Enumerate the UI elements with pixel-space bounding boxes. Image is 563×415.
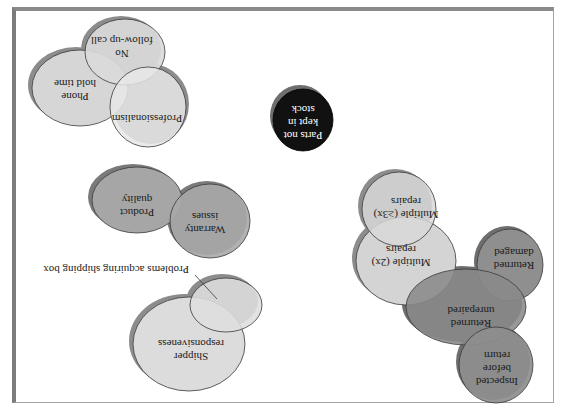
label-shipper-2: responsiveness [158, 338, 224, 350]
label-warranty-1: Warranty [184, 224, 225, 236]
label-warranty-2: issues [192, 211, 218, 223]
label-inspected-1: Inspected [475, 376, 518, 388]
label-returned-unrepaired-2: unrepaired [447, 305, 495, 317]
cluster-customer-service: No follow-up call Phone hold time Profes… [28, 16, 189, 147]
bubble-professionalism [110, 67, 186, 147]
label-professionalism: Professionalism [111, 113, 182, 125]
label-inspected-2: before [483, 363, 511, 375]
label-parts-1: Parts not [284, 130, 323, 142]
label-product-2: quality [121, 194, 152, 206]
bubble-multiple-3x [362, 172, 436, 246]
label-phone-hold-1: Phone [61, 91, 89, 103]
cluster-shipping: Problems acquiring shipping box Shipper … [43, 264, 262, 391]
label-inspected-3: return [483, 350, 510, 362]
label-shipper-1: Shipper [174, 351, 209, 363]
label-multiple-2x-2: repairs [386, 244, 416, 256]
label-parts-2: kept in [287, 117, 318, 129]
cluster-product: Product quality Warranty issues [88, 164, 250, 258]
cluster-parts: Parts not kept in stock [270, 85, 333, 151]
bubble-problems-shipping-box [190, 278, 262, 332]
label-phone-hold-2: hold time [54, 78, 96, 90]
label-multiple-3x-1: Multiple (≥3x) [373, 208, 438, 221]
label-parts-3: stock [291, 104, 315, 116]
label-no-follow-up-1: No [115, 48, 129, 60]
label-product-1: Product [120, 207, 154, 219]
cluster-repairs: Multiple (≥3x) repairs Multiple (2x) rep… [352, 169, 543, 403]
affinity-diagram: No follow-up call Phone hold time Profes… [0, 0, 563, 415]
callout-shipping-box: Problems acquiring shipping box [43, 264, 189, 276]
label-returned-damaged-1: Returned [493, 260, 534, 272]
label-returned-damaged-2: damaged [494, 247, 534, 259]
label-no-follow-up-2: follow-up call [91, 35, 153, 47]
label-returned-unrepaired-1: Returned [450, 318, 491, 330]
label-multiple-3x-2: repairs [391, 196, 421, 208]
label-multiple-2x-1: Multiple (2x) [371, 256, 430, 269]
